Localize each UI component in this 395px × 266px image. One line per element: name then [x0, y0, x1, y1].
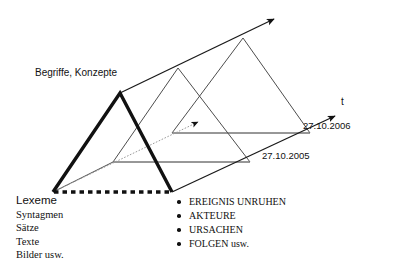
- list-item: Syntagmen: [16, 208, 64, 222]
- lexeme-list: Lexeme Syntagmen Sätze Texte Bilder usw.: [16, 194, 64, 262]
- list-item-label: FOLGEN usw.: [189, 238, 249, 249]
- list-item-label: AKTEURE: [189, 210, 236, 221]
- bullet-icon: [177, 214, 181, 218]
- ereignis-list: EREIGNIS UNRUHEN AKTEURE URSACHEN FOLGEN…: [176, 195, 286, 251]
- date-label-2005: 27.10.2005: [262, 150, 310, 161]
- list-item: Bilder usw.: [16, 248, 64, 262]
- back-triangle: [172, 38, 310, 133]
- date-label-2006: 27.10.2006: [303, 120, 351, 131]
- list-item: FOLGEN usw.: [176, 237, 286, 251]
- list-item-label: EREIGNIS UNRUHEN: [189, 196, 286, 207]
- list-item: URSACHEN: [176, 223, 286, 237]
- begriffe-konzepte-label: Begriffe, Konzepte: [35, 67, 117, 78]
- bullet-icon: [177, 228, 181, 232]
- list-item: Lexeme: [16, 194, 64, 208]
- diagram-canvas: Begriffe, Konzepte t 27.10.2006 27.10.20…: [0, 0, 395, 266]
- bullet-icon: [177, 242, 181, 246]
- middle-triangle: [113, 68, 250, 162]
- list-item: AKTEURE: [176, 209, 286, 223]
- depth-axis-arrow: [120, 19, 274, 93]
- bullet-icon: [177, 200, 181, 204]
- list-item-label: URSACHEN: [189, 224, 243, 235]
- list-item: Texte: [16, 235, 64, 249]
- list-item: EREIGNIS UNRUHEN: [176, 195, 286, 209]
- list-item: Sätze: [16, 221, 64, 235]
- time-axis-label: t: [341, 96, 344, 107]
- bold-front-triangle: [53, 93, 172, 192]
